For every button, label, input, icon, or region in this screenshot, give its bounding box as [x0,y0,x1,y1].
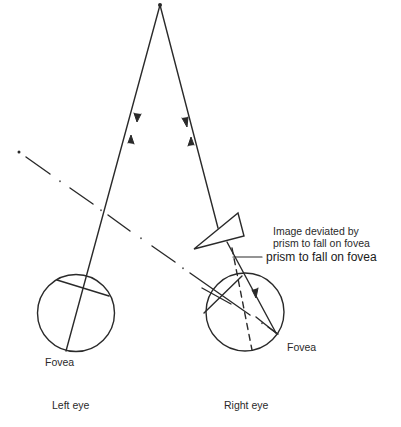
visual-axis-right [160,5,218,228]
arrow-down-icon [182,117,188,127]
annotation-text-line1: Image deviated by [273,225,359,237]
right-eye-label: Right eye [224,399,268,411]
left-eye-label: Left eye [52,399,89,411]
arrow-up-icon [128,135,134,144]
annotation-text-repeat: prism to fall on fovea [266,251,377,265]
visual-axis-left [66,5,160,351]
dash-dot-reference-line [26,157,278,334]
fovea-pointer-right [256,317,276,333]
dash-dot-start [18,151,20,153]
prism-triangle [194,213,244,249]
right-fovea-label: Fovea [287,341,316,353]
left-eye-chord [57,280,109,296]
deviated-axis-dashed [232,248,252,350]
arrow-up-icon [188,137,194,146]
left-fovea-label: Fovea [45,356,74,368]
annotation-text-line2: prism to fall on fovea [273,237,370,249]
arrow-down-icon [134,113,141,122]
